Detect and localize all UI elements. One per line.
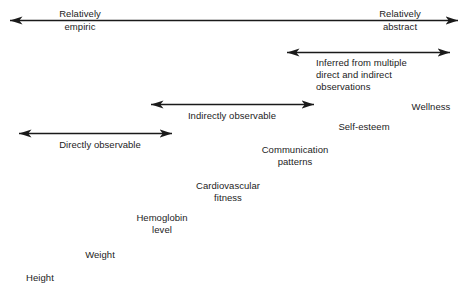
item-label-hemoglobin-level-line2: level bbox=[152, 224, 172, 236]
item-label-cardiovascular-fitness-line1: Cardiovascular bbox=[196, 180, 260, 192]
axis-label-inferred-line3: observations bbox=[316, 81, 370, 93]
item-label-weight: Weight bbox=[85, 249, 115, 261]
axis-label-relatively-abstract-line2: abstract bbox=[383, 21, 417, 33]
axis-label-directly-observable: Directly observable bbox=[59, 139, 141, 151]
item-label-communication-patterns-line2: patterns bbox=[278, 156, 313, 168]
item-label-hemoglobin-level-line1: Hemoglobin bbox=[136, 212, 187, 224]
axis-label-relatively-abstract-line1: Relatively bbox=[379, 8, 421, 20]
diagram-canvas: Relatively empiric Relatively abstract I… bbox=[0, 0, 468, 287]
axis-label-inferred-line1: Inferred from multiple bbox=[316, 57, 407, 69]
axis-label-relatively-empiric-line2: empiric bbox=[65, 21, 96, 33]
axis-label-indirectly-observable: Indirectly observable bbox=[188, 110, 276, 122]
axis-label-inferred-line2: direct and indirect bbox=[316, 69, 392, 81]
item-label-communication-patterns-line1: Communication bbox=[262, 144, 329, 156]
item-label-cardiovascular-fitness-line2: fitness bbox=[214, 192, 242, 204]
item-label-wellness: Wellness bbox=[412, 101, 451, 113]
item-label-self-esteem: Self-esteem bbox=[338, 121, 389, 133]
item-label-height: Height bbox=[26, 272, 54, 284]
axis-label-relatively-empiric-line1: Relatively bbox=[59, 8, 101, 20]
